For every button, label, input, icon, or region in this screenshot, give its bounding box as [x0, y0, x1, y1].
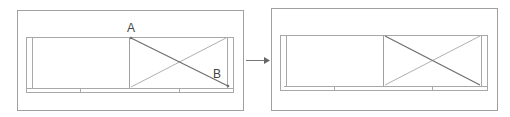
point-a-marker [130, 37, 133, 40]
point-b-label: B [213, 67, 221, 81]
after-outer-frame [272, 9, 498, 111]
point-a-label: A [127, 21, 135, 35]
diagram-canvas: A B [0, 0, 510, 117]
transition-arrow [246, 57, 270, 64]
after-panel [272, 9, 498, 111]
before-panel: A B [18, 11, 244, 111]
point-b-marker [227, 85, 230, 88]
arrow-head-icon [264, 57, 270, 64]
